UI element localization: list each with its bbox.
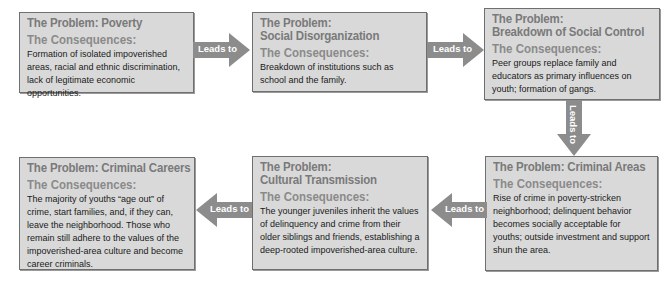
problem-title: The Problem: Poverty [27, 17, 174, 30]
box-breakdown-social-control: The Problem: Breakdown of Social Control… [484, 8, 660, 100]
consequences-text: Breakdown of institutions such as school… [260, 61, 420, 87]
box-cultural-transmission: The Problem: Cultural Transmission The C… [252, 156, 428, 270]
leads-to-arrow-left-1: Leads to [431, 193, 487, 227]
leads-to-arrow-right-2: Leads to [427, 33, 487, 67]
arrow-label: Leads to [445, 203, 484, 214]
consequences-text: Formation of isolated impoverished areas… [27, 48, 187, 100]
consequences-label: The Consequences: [260, 190, 408, 204]
consequences-label: The Consequences: [27, 33, 174, 47]
consequences-text: Rise of crime in poverty-stricken neighb… [493, 192, 651, 257]
arrow-label: Leads to [198, 43, 237, 54]
consequences-label: The Consequences: [493, 177, 638, 191]
consequences-text: The younger juveniles inherit the values… [260, 205, 421, 257]
arrow-label: Leads to [568, 105, 579, 144]
leads-to-arrow-left-2: Leads to [196, 193, 252, 227]
box-criminal-areas: The Problem: Criminal Areas The Conseque… [485, 156, 658, 271]
box-poverty: The Problem: Poverty The Consequences: F… [19, 12, 194, 93]
problem-title: The Problem: Criminal Areas [493, 161, 638, 174]
leads-to-arrow-right-1: Leads to [193, 33, 253, 67]
consequences-label: The Consequences: [27, 178, 175, 192]
problem-title-line2: Cultural Transmission [260, 174, 408, 187]
consequences-label: The Consequences: [260, 46, 407, 60]
box-criminal-careers: The Problem: Criminal Careers The Conseq… [19, 157, 195, 270]
problem-title-line2: Social Disorganization [260, 30, 407, 43]
problem-title-line2: Breakdown of Social Control [492, 26, 640, 39]
consequences-text: Peer groups replace family and educators… [492, 57, 653, 96]
problem-title: The Problem: Criminal Careers [27, 162, 175, 175]
consequences-text: The majority of youths “age out” of crim… [27, 193, 188, 271]
consequences-label: The Consequences: [492, 42, 640, 56]
box-social-disorganization: The Problem: Social Disorganization The … [252, 12, 427, 92]
leads-to-arrow-down: Leads to [557, 100, 591, 156]
arrow-label: Leads to [433, 43, 472, 54]
arrow-label: Leads to [210, 203, 249, 214]
